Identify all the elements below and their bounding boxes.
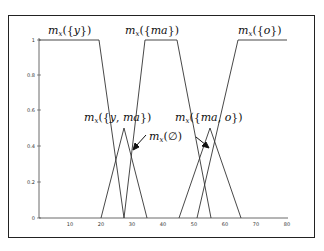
x-tick-10: 10: [67, 221, 73, 227]
x-tick-80: 80: [284, 221, 290, 227]
series-ma: [124, 40, 211, 218]
y-tick-0.2: 0.2: [27, 179, 35, 185]
x-tick-70: 70: [253, 221, 259, 227]
x-tick-40: 40: [160, 221, 166, 227]
series-y: [39, 40, 124, 218]
y-tick-0.6: 0.6: [27, 107, 35, 113]
x-tick-50: 50: [191, 221, 197, 227]
label-my-ma: mx({y, ma}): [84, 111, 151, 125]
x-tick-30: 30: [129, 221, 135, 227]
y-tick-0.8: 0.8: [27, 72, 35, 78]
x-tick-20: 20: [98, 221, 104, 227]
y-tick-0.4: 0.4: [27, 143, 35, 149]
x-ticks: 10 20 30 40 50 60 70 80: [67, 221, 290, 227]
y-tick-1: 1: [32, 37, 35, 43]
label-m-empty: mx(∅): [149, 130, 182, 144]
y-tick-0: 0: [32, 215, 35, 221]
membership-chart: 0 0.2 0.4 0.6 0.8 1 10 20 30 40 50 60 70…: [0, 0, 324, 251]
label-mma: mx({ma}): [125, 24, 179, 38]
x-tick-60: 60: [222, 221, 228, 227]
series-ma-o: [179, 128, 241, 218]
label-mma-o: mx({ma, o}): [175, 111, 243, 125]
label-my: mx({y}): [48, 24, 91, 38]
label-mo: mx({o}): [238, 24, 282, 38]
